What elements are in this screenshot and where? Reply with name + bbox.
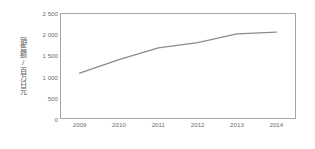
- series-line-sales: [80, 32, 277, 73]
- x-axis-tick-label: 2010: [112, 121, 126, 128]
- x-axis-tick-label: 2011: [152, 121, 165, 128]
- x-axis-tick-label: 2014: [269, 121, 283, 128]
- y-axis-tick-label: 500: [30, 94, 58, 101]
- y-axis-tick-label: 0: [30, 116, 58, 123]
- x-axis-tick-label: 2013: [230, 121, 244, 128]
- y-axis-tick-labels: 05001 0001 5002 0002 500: [30, 10, 58, 122]
- x-axis-tick-label: 2012: [191, 121, 205, 128]
- chart-screenshot: 销售额/百万日元 05001 0001 5002 0002 500 200920…: [0, 0, 315, 149]
- y-axis-tick-label: 2 000: [30, 31, 58, 38]
- y-axis-tick-label: 1 000: [30, 73, 58, 80]
- line-chart-figure: 销售额/百万日元 05001 0001 5002 0002 500 200920…: [0, 0, 315, 149]
- x-axis-tick-label: 2009: [73, 121, 87, 128]
- y-axis-tick-label: 1 500: [30, 52, 58, 59]
- x-axis-tick-labels: 200920102011201220132014: [60, 121, 296, 135]
- y-axis-tick-label: 2 500: [30, 10, 58, 17]
- series-line-plot: [60, 13, 296, 119]
